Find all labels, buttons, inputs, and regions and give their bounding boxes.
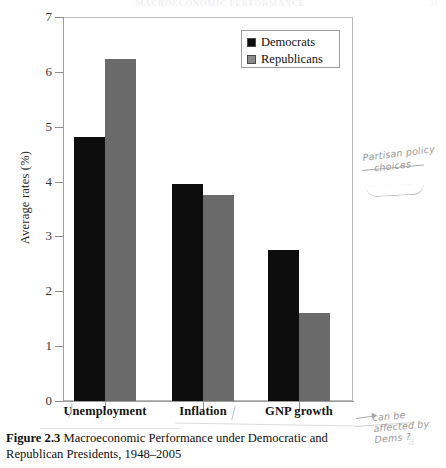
legend-item-republicans: Republicans xyxy=(247,51,339,68)
bar-inflation-democrats xyxy=(172,184,203,401)
y-tick-label-6: 6 xyxy=(26,65,52,78)
y-tick-2 xyxy=(55,291,63,292)
y-tick-6 xyxy=(55,72,63,73)
figure-caption: Figure 2.3 Macroeconomic Performance und… xyxy=(6,430,336,462)
bar-inflation-republicans xyxy=(203,195,234,401)
legend-label-republicans: Republicans xyxy=(261,53,323,66)
figure-caption-label: Figure 2.3 xyxy=(6,431,60,445)
y-tick-3 xyxy=(55,236,63,237)
figure-2-3: Average rates (%) 01234567 UnemploymentI… xyxy=(0,0,446,468)
y-tick-label-1: 1 xyxy=(26,339,52,352)
chart-legend: Democrats Republicans xyxy=(241,30,340,68)
y-tick-label-4: 4 xyxy=(26,175,52,188)
legend-item-democrats: Democrats xyxy=(247,34,339,51)
y-tick-label-7: 7 xyxy=(26,10,52,23)
legend-swatch-republicans-icon xyxy=(247,55,256,64)
handwritten-note-affected-by-dems: can be affected by Dems ? xyxy=(372,407,431,445)
x-label-gnp-growth: GNP growth xyxy=(239,404,359,419)
bar-gnp-growth-democrats xyxy=(268,250,299,401)
y-tick-0 xyxy=(55,401,63,402)
bar-unemployment-democrats xyxy=(74,137,105,401)
bars-layer xyxy=(63,17,353,401)
y-tick-label-2: 2 xyxy=(26,284,52,297)
y-tick-4 xyxy=(55,182,63,183)
page-edge-smudge: a xyxy=(408,436,414,447)
legend-swatch-democrats-icon xyxy=(247,38,256,47)
x-axis-line xyxy=(63,401,354,402)
y-tick-5 xyxy=(55,127,63,128)
bar-unemployment-republicans xyxy=(105,59,136,401)
pencil-line-caption-left xyxy=(40,428,180,429)
legend-label-democrats: Democrats xyxy=(261,36,315,49)
bar-gnp-growth-republicans xyxy=(299,313,330,401)
y-tick-label-3: 3 xyxy=(26,229,52,242)
y-tick-label-5: 5 xyxy=(26,120,52,133)
y-tick-7 xyxy=(55,17,63,18)
y-axis-title: Average rates (%) xyxy=(18,113,33,283)
y-tick-1 xyxy=(55,346,63,347)
